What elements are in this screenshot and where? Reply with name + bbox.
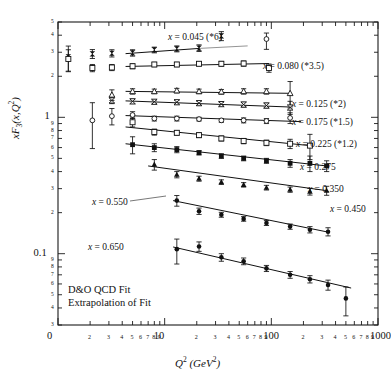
- x-minor-tick-label: 3: [214, 334, 217, 340]
- series-label-0-45: x = 0.450: [330, 205, 366, 215]
- series-label-0-08: x = 0.080 (*3.5): [263, 62, 324, 72]
- x-minor-tick-label: 7: [146, 334, 149, 340]
- x-minor-tick-label: 7: [359, 334, 362, 340]
- axis-ticks: [58, 22, 378, 325]
- y-tick-label-1: 1: [45, 111, 50, 122]
- x-minor-tick-label: 2: [195, 334, 198, 340]
- x-minor-tick-label: 5: [237, 334, 240, 340]
- series-label-0-045: x = 0.045 (*6): [168, 33, 222, 43]
- y-minor-tick-label: 7: [51, 272, 54, 278]
- fit-line: [173, 201, 328, 232]
- x-minor-tick-label: 6: [352, 334, 355, 340]
- y-minor-tick-label: 8: [51, 128, 54, 134]
- series-label-0-225: x = 0.225 (*1.2): [296, 140, 357, 150]
- label-leader-line: [130, 196, 166, 201]
- legend-extrapolation: Extrapolation of Fit: [68, 298, 151, 309]
- y-minor-tick-label: 5: [51, 155, 54, 161]
- y-minor-tick-label: 7: [51, 135, 54, 141]
- series-8: [174, 196, 330, 236]
- y-minor-tick-label: 3: [51, 322, 54, 328]
- y-minor-tick-label: 2: [51, 73, 54, 79]
- x-tick-label-100: 100: [263, 331, 279, 342]
- x-minor-tick-label: 3: [320, 334, 323, 340]
- series-label-0-175: x = 0.175 (*1.5): [292, 118, 353, 128]
- x-minor-tick-label: 5: [131, 334, 134, 340]
- x-axis-title-text: Q2 (GeV2): [175, 357, 220, 369]
- legend-qcd-fit: D&O QCD Fit: [68, 285, 130, 296]
- x-minor-tick-label: 8: [259, 334, 262, 340]
- y-minor-tick-label: 2: [51, 210, 54, 216]
- y-tick-label-0.1: 0.1: [34, 248, 47, 259]
- x-minor-tick-label: 8: [366, 334, 369, 340]
- series-label-0-125: x = 0.125 (*2): [292, 100, 346, 110]
- x-minor-tick-label: 7: [253, 334, 256, 340]
- x-tick-label-1000: 1000: [370, 331, 391, 342]
- fit-line: [126, 48, 199, 53]
- x-minor-tick-label: 5: [344, 334, 347, 340]
- x-minor-tick-label: 6: [246, 334, 249, 340]
- y-minor-tick-label: 6: [51, 281, 54, 287]
- series-label-0-35: x = 0.350: [308, 185, 344, 195]
- y-minor-tick-label: 4: [51, 32, 54, 38]
- y-minor-tick-label: 6: [51, 145, 54, 151]
- x-axis-title: Q2 (GeV2): [175, 356, 220, 369]
- leader-lines: [130, 196, 166, 201]
- y-axis-title: xF3(x,Q2): [8, 0, 23, 118]
- y-minor-tick-label: 3: [51, 186, 54, 192]
- fit-line: [173, 247, 351, 288]
- y-minor-tick-label: 8: [51, 264, 54, 270]
- y-axis-title-text: xF3(x,Q2): [8, 0, 23, 238]
- series-5: [130, 118, 313, 160]
- plot-frame: [58, 22, 378, 325]
- series-label-0-275: x = 0.275: [300, 163, 336, 173]
- y-minor-tick-label: 9: [51, 257, 54, 263]
- y-minor-tick-label: 3: [51, 49, 54, 55]
- x-tick-label-10: 10: [154, 331, 165, 342]
- y-minor-tick-label: 9: [51, 121, 54, 127]
- y-minor-tick-label: 4: [51, 169, 54, 175]
- series-label-0-55: x = 0.550: [92, 198, 128, 208]
- x-minor-tick-label: 2: [88, 334, 91, 340]
- x-minor-tick-label: 3: [107, 334, 110, 340]
- y-minor-tick-label: 5: [51, 292, 54, 298]
- x-minor-tick-label: 6: [139, 334, 142, 340]
- x-minor-tick-label: 4: [334, 334, 337, 340]
- series-1: [66, 50, 272, 73]
- y-minor-tick-label: 5: [51, 19, 54, 25]
- x-minor-tick-label: 4: [227, 334, 230, 340]
- x-minor-tick-label: 4: [120, 334, 123, 340]
- x-minor-tick-label: 2: [301, 334, 304, 340]
- y-minor-tick-label: 4: [51, 305, 54, 311]
- extrapolation-line: [199, 46, 248, 49]
- series-4: [90, 103, 293, 149]
- series-9: [174, 239, 348, 316]
- x-tick-label-0: 0: [47, 331, 52, 342]
- series-label-0-65: x = 0.650: [88, 243, 124, 253]
